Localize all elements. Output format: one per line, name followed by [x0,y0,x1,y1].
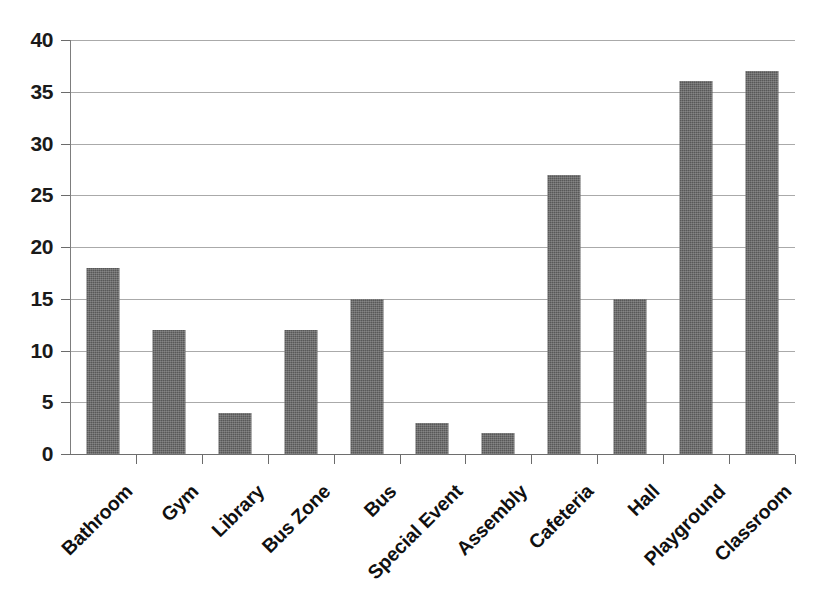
x-axis-tick [268,455,269,464]
y-axis-tick-labels: 0510152025303540 [0,0,53,609]
bar[interactable] [218,413,251,454]
x-axis-label: Assembly [452,480,532,560]
x-axis-tick [136,455,137,464]
x-axis-tick [400,455,401,464]
y-axis-tick-30 [61,144,70,145]
bar[interactable] [350,299,383,454]
bar-slot [531,40,597,454]
y-axis-tick-20 [61,247,70,248]
bar[interactable] [86,268,119,454]
bar-slot [136,40,202,454]
x-axis-tick [465,455,466,464]
bar-slot [729,40,795,454]
x-axis-label: Bus Zone [257,480,335,558]
x-axis-tick [795,455,796,464]
x-axis-tick [202,455,203,464]
y-axis-label-35: 35 [7,81,53,102]
x-axis-label: Library [207,480,269,542]
bar[interactable] [416,423,449,454]
y-axis-label-20: 20 [7,236,53,257]
y-axis-label-5: 5 [7,391,53,412]
bar[interactable] [152,330,185,454]
bar-slot [268,40,334,454]
y-axis-label-30: 30 [7,133,53,154]
x-axis-label: Bathroom [57,480,137,560]
x-axis-label: Hall [623,480,664,521]
y-axis-label-10: 10 [7,340,53,361]
x-axis-label: Cafeteria [524,480,598,554]
x-axis-label: Bus [359,480,401,522]
bar-slot [334,40,400,454]
bar[interactable] [482,433,515,454]
y-axis-tick-15 [61,299,70,300]
y-axis-label-25: 25 [7,184,53,205]
y-axis-label-40: 40 [7,29,53,50]
x-axis-label: Gym [156,480,203,527]
y-axis-tick-10 [61,351,70,352]
bar[interactable] [284,330,317,454]
x-axis-tick [663,455,664,464]
bar-slot [597,40,663,454]
x-axis-tick [597,455,598,464]
x-axis-tick [531,455,532,464]
y-axis-label-0: 0 [7,443,53,464]
bar-slot [465,40,531,454]
bar-slot [400,40,466,454]
x-axis-tick [729,455,730,464]
bar-slot [70,40,136,454]
bar[interactable] [548,175,581,454]
y-axis-tick-40 [61,40,70,41]
x-axis-line [70,454,795,455]
bar-slot [663,40,729,454]
plot-area [70,40,795,454]
y-axis-label-15: 15 [7,288,53,309]
y-axis-tick-25 [61,195,70,196]
bar-slot [202,40,268,454]
y-axis-tick-0 [61,454,70,455]
bar-chart: 0510152025303540 BathroomGymLibraryBus Z… [0,0,823,609]
bar[interactable] [680,81,713,454]
bar[interactable] [614,299,647,454]
y-axis-tick-35 [61,92,70,93]
y-axis-line [70,40,71,455]
y-axis-tick-5 [61,402,70,403]
bar[interactable] [746,71,779,454]
x-axis-tick [334,455,335,464]
